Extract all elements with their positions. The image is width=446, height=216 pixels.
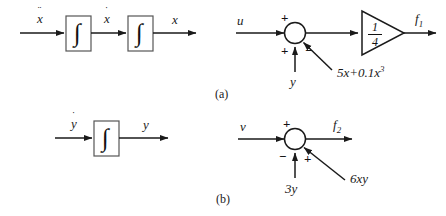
label-x-dot: ˙ x: [104, 12, 110, 25]
sign-minus-3y: −: [279, 150, 286, 163]
sign-plus-u: +: [281, 11, 288, 24]
caption-a: (a): [215, 88, 228, 100]
label-v-input: v: [240, 120, 246, 133]
label-f1-output: f1: [415, 12, 423, 28]
sign-minus-nonlinear-feedback: −: [305, 44, 312, 57]
label-3y-feedback: 3y: [285, 182, 297, 195]
single-dot-accent: ˙: [104, 6, 110, 17]
sign-plus-v: +: [283, 117, 290, 130]
label-nonlinear-feedback: 5x+0.1x3: [337, 65, 384, 79]
label-x-double-dot: ¨ x: [37, 12, 43, 25]
caption-b: (b): [216, 193, 230, 205]
label-nonlinear-feedback-exponent: 3: [380, 64, 384, 74]
label-x-output: x: [172, 13, 178, 26]
gain-fraction-one-quarter: 1 4: [368, 21, 382, 48]
integrator-symbol-1: ∫: [74, 20, 81, 45]
double-dot-accent: ¨: [37, 6, 43, 17]
label-f1-subscript: 1: [419, 19, 423, 29]
label-6xy-feedback: 6xy: [350, 172, 368, 185]
summer-f2-lines: [238, 129, 352, 181]
block-diagram-figure: ∫ ∫ ¨ x ˙ x x u + + − y 5x+0.1x3 1 4 f1 …: [0, 0, 446, 216]
integrator-symbol-2: ∫: [136, 20, 143, 45]
label-y-output: y: [143, 118, 149, 131]
gain-numerator: 1: [368, 21, 382, 33]
single-dot-accent-y: ˙: [71, 111, 77, 122]
gain-denominator: 4: [368, 36, 382, 48]
label-u-input: u: [237, 14, 244, 27]
label-f2-subscript: 2: [337, 125, 341, 135]
sign-plus-6xy: +: [304, 152, 311, 165]
summer-f1-lines: [236, 11, 436, 72]
integrator-symbol-3: ∫: [102, 125, 109, 150]
label-y-feedback: y: [290, 75, 296, 88]
label-f2-output: f2: [333, 118, 341, 134]
sign-plus-y: +: [281, 44, 288, 57]
label-nonlinear-feedback-base: 5x+0.1x: [337, 65, 380, 80]
label-y-dot: ˙ y: [71, 117, 77, 130]
